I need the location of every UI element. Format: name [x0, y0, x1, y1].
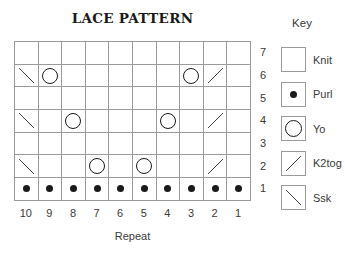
k2tog-slash-icon [207, 68, 223, 84]
grid-cell [86, 87, 110, 110]
key-legend: KnitPurlYoK2togSsk [281, 47, 342, 220]
grid-cell [204, 110, 228, 133]
grid-cell [180, 42, 204, 65]
grid-cell [227, 110, 251, 133]
purl-dot-icon [235, 185, 242, 192]
grid-cell [15, 155, 39, 178]
grid-cell [227, 133, 251, 156]
grid-cell [227, 178, 251, 201]
grid-cell [15, 42, 39, 65]
grid-cell [15, 133, 39, 156]
grid-cell [86, 110, 110, 133]
grid-cell [157, 110, 181, 133]
stitch-number: 8 [61, 207, 85, 219]
stitch-number: 1 [226, 207, 250, 219]
grid-cell [180, 178, 204, 201]
yo-circle-icon [89, 158, 105, 174]
repeat-label: Repeat [14, 230, 251, 242]
grid-cell [86, 65, 110, 88]
grid-cell [227, 42, 251, 65]
purl-dot-icon [141, 185, 148, 192]
ssk-slash-icon [286, 190, 302, 206]
grid-cell [86, 42, 110, 65]
row-number: 7 [252, 41, 274, 64]
grid-cell [15, 87, 39, 110]
stitch-number: 10 [14, 207, 38, 219]
stitch-numbers: 10987654321 [14, 207, 251, 219]
grid-cell [39, 42, 63, 65]
yo-circle-icon [136, 158, 152, 174]
grid-cell [133, 87, 157, 110]
stitch-number: 9 [38, 207, 62, 219]
grid-cell [109, 87, 133, 110]
ssk-slash-icon [19, 113, 35, 129]
grid-cell [133, 178, 157, 201]
grid-cell [15, 178, 39, 201]
grid-cell [109, 42, 133, 65]
yo-circle-icon [160, 113, 176, 129]
yo-circle-icon [285, 120, 302, 137]
stitch-number: 4 [156, 207, 180, 219]
k2tog-slash-icon [286, 155, 302, 171]
grid-cell [204, 65, 228, 88]
grid-cell [109, 65, 133, 88]
grid-cell [109, 155, 133, 178]
grid-cell [133, 133, 157, 156]
row-number: 1 [252, 177, 274, 200]
row-number: 3 [252, 132, 274, 155]
grid-cell [133, 155, 157, 178]
key-entry-label: Yo [313, 123, 325, 135]
purl-dot-icon [188, 185, 195, 192]
grid-cell [39, 155, 63, 178]
key-entry: Yo [281, 116, 342, 141]
grid-cell [157, 155, 181, 178]
purl-dot-icon [46, 185, 53, 192]
grid-cell [204, 133, 228, 156]
grid-cell [62, 133, 86, 156]
stitch-number: 5 [132, 207, 156, 219]
grid-cell [180, 65, 204, 88]
grid-cell [62, 87, 86, 110]
stitch-number: 2 [203, 207, 227, 219]
yo-circle-icon [183, 68, 199, 84]
ssk-slash-icon [19, 159, 35, 175]
k2tog-slash-icon [207, 113, 223, 129]
grid-cell [133, 110, 157, 133]
grid-cell [15, 110, 39, 133]
grid-cell [39, 178, 63, 201]
key-entry-label: Ssk [313, 192, 331, 204]
row-numbers: 7654321 [252, 41, 274, 201]
grid-cell [86, 133, 110, 156]
grid-cell [204, 42, 228, 65]
yo-circle-icon [42, 68, 58, 84]
grid-cell [62, 110, 86, 133]
grid-cell [62, 155, 86, 178]
key-entry: Purl [281, 82, 342, 107]
chart-title: LACE PATTERN [14, 10, 251, 26]
key-entry: Knit [281, 47, 342, 72]
row-number: 5 [252, 86, 274, 109]
purl-dot-icon [117, 185, 124, 192]
grid-cell [15, 65, 39, 88]
key-symbol-box [281, 47, 306, 72]
stitch-number: 6 [108, 207, 132, 219]
row-number: 2 [252, 154, 274, 177]
stitch-number: 7 [85, 207, 109, 219]
row-number: 6 [252, 64, 274, 87]
grid-cell [157, 133, 181, 156]
grid-cell [180, 155, 204, 178]
yo-circle-icon [65, 113, 81, 129]
grid-cell [227, 155, 251, 178]
key-symbol-box [281, 151, 306, 176]
lace-pattern-chart: LACE PATTERN 7654321 10987654321 Repeat … [0, 0, 345, 256]
key-entry-label: Purl [313, 88, 333, 100]
grid-cell [133, 65, 157, 88]
grid-cell [157, 65, 181, 88]
grid-cell [227, 65, 251, 88]
grid-cell [39, 65, 63, 88]
grid-cell [133, 42, 157, 65]
key-entry: K2tog [281, 151, 342, 176]
grid-cell [227, 87, 251, 110]
key-symbol-box [281, 82, 306, 107]
purl-dot-icon [212, 185, 219, 192]
